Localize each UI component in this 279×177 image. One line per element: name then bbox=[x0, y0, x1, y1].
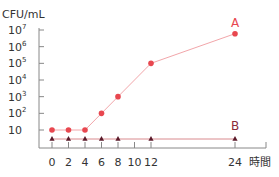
data-point bbox=[232, 31, 238, 37]
data-point bbox=[99, 111, 105, 117]
data-point bbox=[232, 136, 237, 141]
growth-chart: CFU/mL1010210310410510610702468101224時間A… bbox=[0, 0, 279, 177]
y-tick-label: 105 bbox=[8, 56, 26, 70]
x-tick-label: 12 bbox=[144, 156, 158, 169]
y-tick-label: 106 bbox=[8, 40, 27, 54]
data-point bbox=[115, 136, 120, 141]
data-point bbox=[115, 94, 121, 100]
y-tick-label: 103 bbox=[8, 90, 26, 104]
x-tick-label: 8 bbox=[115, 156, 122, 169]
series-label-B: B bbox=[231, 119, 239, 133]
y-tick-label: 107 bbox=[8, 23, 26, 37]
y-tick-label: 104 bbox=[8, 73, 27, 87]
data-point bbox=[49, 127, 55, 133]
series-line-A bbox=[52, 34, 235, 130]
x-tick-label: 2 bbox=[65, 156, 72, 169]
x-tick-label: 0 bbox=[49, 156, 56, 169]
data-point bbox=[99, 136, 104, 141]
data-point bbox=[66, 127, 72, 133]
data-point bbox=[66, 136, 71, 141]
x-tick-label: 6 bbox=[98, 156, 105, 169]
x-tick-label: 24 bbox=[228, 156, 242, 169]
data-point bbox=[148, 61, 154, 67]
data-point bbox=[82, 136, 87, 141]
series-label-A: A bbox=[231, 16, 240, 30]
x-tick-label: 4 bbox=[82, 156, 89, 169]
y-tick-label: 10 bbox=[8, 124, 22, 137]
data-point bbox=[148, 136, 153, 141]
data-point bbox=[49, 136, 54, 141]
y-tick-label: 102 bbox=[8, 106, 26, 120]
x-tick-label: 10 bbox=[128, 156, 142, 169]
x-unit-label: 時間 bbox=[249, 156, 271, 169]
y-axis-label: CFU/mL bbox=[2, 8, 45, 21]
data-point bbox=[82, 127, 88, 133]
